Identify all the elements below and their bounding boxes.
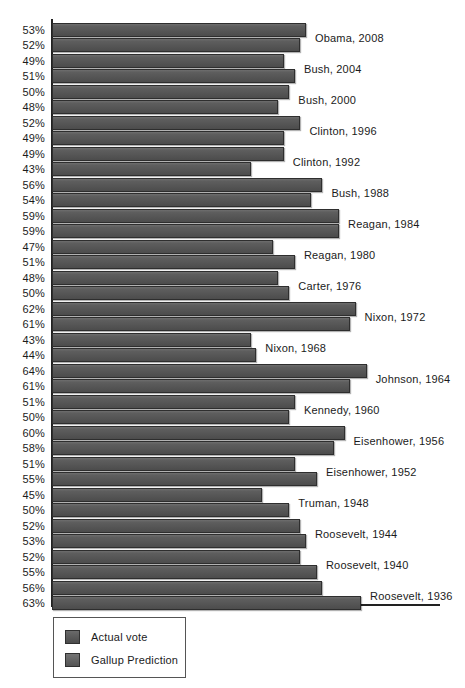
bar-row: 62%61%Nixon, 1972 xyxy=(0,302,465,334)
bar-actual-vote xyxy=(52,54,284,68)
value-label-gallup: 59% xyxy=(0,224,45,238)
category-label: Bush, 1988 xyxy=(331,186,389,200)
bar-actual-vote xyxy=(52,147,284,161)
bar-actual-vote xyxy=(52,271,278,285)
legend-item-gallup-prediction: Gallup Prediction xyxy=(65,652,178,668)
value-label-actual: 48% xyxy=(0,271,45,285)
value-label-gallup: 58% xyxy=(0,441,45,455)
value-label-actual: 45% xyxy=(0,488,45,502)
bar-gallup-prediction xyxy=(52,565,317,579)
value-label-actual: 47% xyxy=(0,240,45,254)
bar-row: 51%50%Kennedy, 1960 xyxy=(0,395,465,427)
bar-actual-vote xyxy=(52,302,356,316)
bar-row: 49%51%Bush, 2004 xyxy=(0,54,465,86)
value-label-gallup: 61% xyxy=(0,379,45,393)
bar-row: 53%52%Obama, 2008 xyxy=(0,23,465,55)
bar-actual-vote xyxy=(52,488,262,502)
value-label-actual: 51% xyxy=(0,395,45,409)
bar-gallup-prediction xyxy=(52,596,361,610)
bar-actual-vote xyxy=(52,550,300,564)
value-label-actual: 59% xyxy=(0,209,45,223)
bar-actual-vote xyxy=(52,116,300,130)
category-label: Roosevelt, 1940 xyxy=(326,558,409,572)
bar-row: 52%49%Clinton, 1996 xyxy=(0,116,465,148)
legend-label-actual-vote: Actual vote xyxy=(91,630,148,644)
bar-actual-vote xyxy=(52,519,300,533)
legend-item-actual-vote: Actual vote xyxy=(65,629,148,645)
value-label-gallup: 53% xyxy=(0,534,45,548)
category-label: Kennedy, 1960 xyxy=(304,403,380,417)
chart-legend: Actual vote Gallup Prediction xyxy=(53,617,186,678)
bar-row: 43%44%Nixon, 1968 xyxy=(0,333,465,365)
bar-actual-vote xyxy=(52,85,289,99)
category-label: Clinton, 1992 xyxy=(293,155,360,169)
value-label-gallup: 51% xyxy=(0,69,45,83)
value-label-gallup: 55% xyxy=(0,472,45,486)
bar-gallup-prediction xyxy=(52,379,350,393)
legend-label-gallup-prediction: Gallup Prediction xyxy=(91,653,178,667)
bar-gallup-prediction xyxy=(52,286,289,300)
bar-row: 49%43%Clinton, 1992 xyxy=(0,147,465,179)
value-label-gallup: 54% xyxy=(0,193,45,207)
bar-row: 52%53%Roosevelt, 1944 xyxy=(0,519,465,551)
category-label: Truman, 1948 xyxy=(298,496,368,510)
value-label-actual: 49% xyxy=(0,147,45,161)
category-label: Carter, 1976 xyxy=(298,279,361,293)
bar-gallup-prediction xyxy=(52,317,350,331)
bar-row: 47%51%Reagan, 1980 xyxy=(0,240,465,272)
value-label-actual: 50% xyxy=(0,85,45,99)
value-label-actual: 52% xyxy=(0,116,45,130)
value-label-actual: 56% xyxy=(0,581,45,595)
bar-actual-vote xyxy=(52,426,345,440)
bar-gallup-prediction xyxy=(52,69,295,83)
bar-gallup-prediction xyxy=(52,348,256,362)
bar-actual-vote xyxy=(52,240,273,254)
bar-gallup-prediction xyxy=(52,38,300,52)
bar-gallup-prediction xyxy=(52,410,289,424)
category-label: Bush, 2004 xyxy=(304,62,362,76)
bar-row: 56%63%Roosevelt, 1936 xyxy=(0,581,465,613)
category-label: Eisenhower, 1952 xyxy=(326,465,417,479)
bar-gallup-prediction xyxy=(52,131,284,145)
category-label: Roosevelt, 1944 xyxy=(315,527,398,541)
category-label: Obama, 2008 xyxy=(315,31,384,45)
value-label-actual: 64% xyxy=(0,364,45,378)
value-label-actual: 51% xyxy=(0,457,45,471)
bar-actual-vote xyxy=(52,23,306,37)
category-label: Reagan, 1984 xyxy=(348,217,420,231)
value-label-gallup: 52% xyxy=(0,38,45,52)
value-label-gallup: 61% xyxy=(0,317,45,331)
value-label-gallup: 51% xyxy=(0,255,45,269)
value-label-gallup: 63% xyxy=(0,596,45,610)
bar-gallup-prediction xyxy=(52,193,311,207)
bar-actual-vote xyxy=(52,333,251,347)
bar-gallup-prediction xyxy=(52,224,339,238)
bar-actual-vote xyxy=(52,457,295,471)
bar-gallup-prediction xyxy=(52,503,289,517)
value-label-gallup: 50% xyxy=(0,410,45,424)
bar-actual-vote xyxy=(52,364,367,378)
bar-actual-vote xyxy=(52,178,322,192)
value-label-actual: 60% xyxy=(0,426,45,440)
value-label-actual: 56% xyxy=(0,178,45,192)
bar-gallup-prediction xyxy=(52,255,295,269)
category-label: Johnson, 1964 xyxy=(376,372,451,386)
category-label: Reagan, 1980 xyxy=(304,248,376,262)
value-label-gallup: 55% xyxy=(0,565,45,579)
bar-gallup-prediction xyxy=(52,162,251,176)
category-label: Roosevelt, 1936 xyxy=(370,589,453,603)
bar-row: 48%50%Carter, 1976 xyxy=(0,271,465,303)
value-label-gallup: 50% xyxy=(0,503,45,517)
bar-row: 64%61%Johnson, 1964 xyxy=(0,364,465,396)
category-label: Nixon, 1972 xyxy=(365,310,426,324)
bar-row: 52%55%Roosevelt, 1940 xyxy=(0,550,465,582)
bar-row: 56%54%Bush, 1988 xyxy=(0,178,465,210)
gallup-vs-actual-vote-chart: 53%52%Obama, 200849%51%Bush, 200450%48%B… xyxy=(0,0,465,688)
bar-row: 51%55%Eisenhower, 1952 xyxy=(0,457,465,489)
value-label-actual: 53% xyxy=(0,23,45,37)
bar-actual-vote xyxy=(52,395,295,409)
value-label-actual: 49% xyxy=(0,54,45,68)
category-label: Clinton, 1996 xyxy=(309,124,376,138)
bar-row: 59%59%Reagan, 1984 xyxy=(0,209,465,241)
category-label: Bush, 2000 xyxy=(298,93,356,107)
